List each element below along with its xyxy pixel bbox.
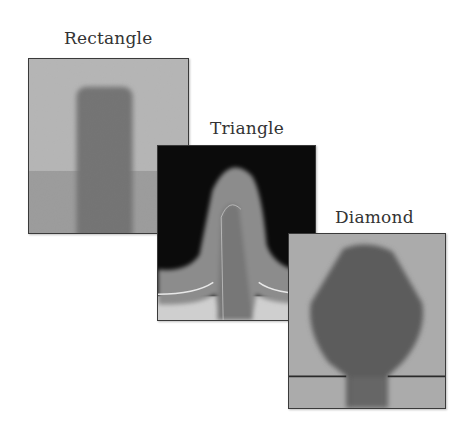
rectangle-label: Rectangle (64, 28, 152, 48)
diamond-sem-image (288, 233, 446, 409)
triangle-label: Triangle (210, 118, 284, 138)
diamond-label: Diamond (335, 207, 414, 227)
diamond-fin-graphic (289, 234, 445, 408)
